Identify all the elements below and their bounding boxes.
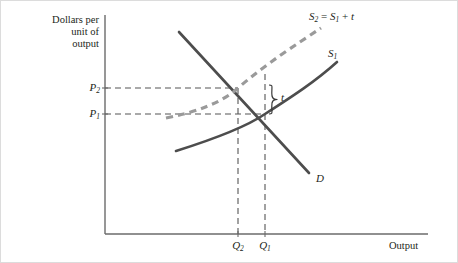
x-axis-title: Output [389, 240, 418, 252]
chart-frame: S_1 Dollars per unit of output Output S2… [0, 0, 458, 263]
p1-sub: 1 [96, 112, 100, 121]
y-axis-title: S_1 Dollars per unit of output [21, 14, 99, 49]
q2-sub: 2 [240, 244, 244, 253]
y-axis-title-text-2: unit of [21, 26, 99, 38]
price-label-p2: P2 [64, 81, 100, 95]
demand-curve-label: D [316, 172, 324, 184]
y-axis-title-text-3: output [21, 38, 99, 50]
s2-plus: + [339, 10, 351, 22]
s1-sub: 1 [334, 52, 338, 61]
p2-sub: 2 [96, 86, 100, 95]
supply-curve-s1-label: S1 [328, 47, 337, 61]
q1-base: Q [259, 239, 267, 251]
s2-equals: = [318, 10, 330, 22]
q1-sub: 1 [267, 244, 271, 253]
q2-base: Q [232, 239, 240, 251]
tax-brace-label: t [281, 91, 284, 103]
supply-curve-s2-label: S2 = S1 + t [309, 10, 354, 24]
quantity-label-q2: Q2 [226, 239, 250, 253]
price-label-p1: P1 [64, 107, 100, 121]
demand-curve [179, 32, 309, 173]
supply-curve-s1 [176, 62, 337, 151]
s2-tax: t [351, 10, 354, 22]
y-axis-title-text-1: Dollars per [21, 14, 99, 26]
quantity-label-q1: Q1 [253, 239, 277, 253]
